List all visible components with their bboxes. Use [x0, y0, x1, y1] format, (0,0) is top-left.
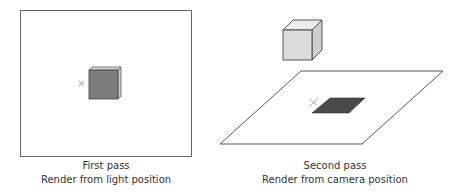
- second-pass-panel: [220, 20, 443, 144]
- first-pass-title: First pass: [20, 159, 192, 173]
- first-pass-caption: First pass Render from light position: [20, 159, 192, 187]
- cube-light-view: [89, 67, 121, 99]
- first-pass-subtitle: Render from light position: [20, 173, 192, 187]
- second-pass-subtitle: Render from camera position: [240, 173, 430, 187]
- first-pass-panel: [21, 11, 192, 157]
- cube-camera-view: [283, 20, 322, 60]
- second-pass-caption: Second pass Render from camera position: [240, 159, 430, 187]
- second-pass-title: Second pass: [240, 159, 430, 173]
